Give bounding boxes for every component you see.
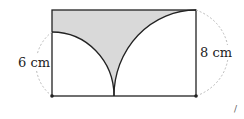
label-6cm: 6 cm (18, 55, 50, 70)
right-point (194, 94, 198, 98)
left-point (50, 94, 54, 98)
corner-mark: / (234, 104, 237, 114)
label-8cm: 8 cm (200, 45, 232, 60)
shaded-region (52, 10, 196, 96)
